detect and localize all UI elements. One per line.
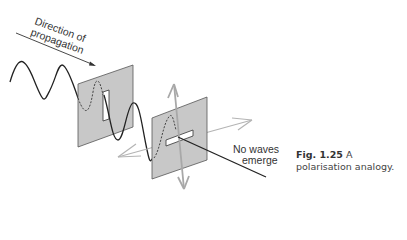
no-waves-label-line2: emerge: [242, 154, 278, 166]
vertical-slit-panel: [78, 65, 133, 147]
incoming-wave: [10, 61, 78, 99]
vertical-slit: [103, 90, 109, 121]
figure-number: Fig. 1.25: [296, 149, 343, 160]
figure-caption: Fig. 1.25 A polarisation analogy.: [296, 149, 406, 173]
